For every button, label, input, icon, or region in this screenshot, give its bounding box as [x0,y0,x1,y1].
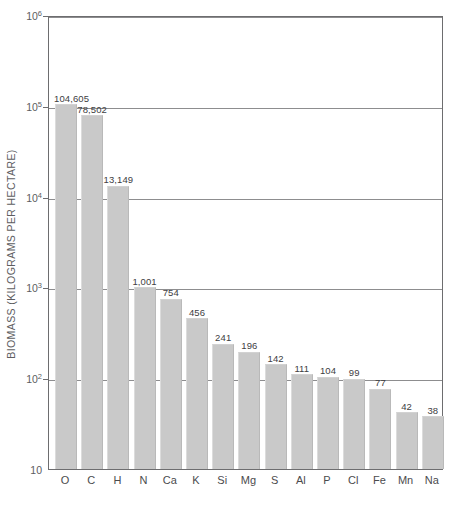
x-tick-label-al: Al [296,474,306,486]
x-tick-label-h: H [113,474,121,486]
bar-h: 13,149 [107,186,129,469]
y-tick-label: 10 [26,373,38,385]
bar-value-label: 42 [401,401,412,412]
y-tick-exponent: 6 [38,9,42,18]
bar-n: 1,001 [134,287,156,469]
bar-value-label: 142 [268,353,284,364]
bar-s: 142 [265,364,287,469]
bar-value-label: 111 [294,363,309,374]
y-tick-mark [43,16,48,17]
y-tick-mark [43,198,48,199]
bar-al: 111 [291,374,313,469]
y-tick-label: 10 [26,192,38,204]
x-tick-label-mg: Mg [241,474,256,486]
x-tick-label-k: K [192,474,199,486]
x-tick-label-c: C [87,474,95,486]
bar-mg: 196 [238,352,260,469]
bar-value-label: 77 [375,377,386,388]
y-tick-exponent: 3 [38,281,42,290]
y-tick-mark [43,107,48,108]
y-axis-title: BIOMASS (KILOGRAMS PER HECTARE) [0,0,22,508]
x-tick-label-s: S [271,474,278,486]
y-tick-mark [43,288,48,289]
bar-value-label: 78,502 [77,104,107,115]
x-tick-label-p: P [323,474,330,486]
y-tick-mark [43,379,48,380]
bar-value-label: 754 [163,287,179,298]
bar-value-label: 1,001 [132,276,156,287]
y-tick-label: 10 [30,464,42,476]
bar-c: 78,502 [81,115,103,469]
bar-ca: 754 [160,299,182,469]
y-axis-title-text: BIOMASS (KILOGRAMS PER HECTARE) [5,149,17,358]
bar-value-label: 456 [189,307,205,318]
x-tick-label-si: Si [217,474,227,486]
bar-mn: 42 [396,412,418,469]
bar-value-label: 38 [427,405,438,416]
y-tick-exponent: 2 [38,372,42,381]
bar-o: 104,605 [55,104,77,469]
gridline [49,108,442,109]
x-tick-label-n: N [140,474,148,486]
gridline [49,17,442,18]
bar-fe: 77 [369,389,391,469]
bar-value-label: 13,149 [104,174,134,185]
y-tick-label: 10 [26,101,38,113]
bar-value-label: 104,605 [54,93,89,104]
bar-si: 241 [212,344,234,469]
bar-k: 456 [186,318,208,469]
bar-value-label: 241 [215,332,231,343]
x-tick-label-ca: Ca [163,474,177,486]
bar-value-label: 196 [241,340,257,351]
plot-area: 104,60578,50213,1491,0017544562411961421… [48,16,443,470]
y-tick-label: 10 [26,282,38,294]
y-tick-exponent: 5 [38,99,42,108]
x-tick-label-cl: Cl [348,474,358,486]
x-tick-label-mn: Mn [398,474,413,486]
bar-na: 38 [422,416,444,469]
x-tick-label-o: O [61,474,70,486]
x-tick-label-na: Na [425,474,439,486]
bar-cl: 99 [343,379,365,469]
biomass-bar-chart: BIOMASS (KILOGRAMS PER HECTARE) 104,6057… [0,0,460,508]
y-tick-exponent: 4 [38,190,42,199]
bar-p: 104 [317,377,339,469]
bar-value-label: 104 [320,365,336,376]
y-tick-label: 10 [26,10,38,22]
bar-value-label: 99 [349,367,360,378]
y-tick: 10 [30,464,48,476]
x-tick-label-fe: Fe [373,474,386,486]
